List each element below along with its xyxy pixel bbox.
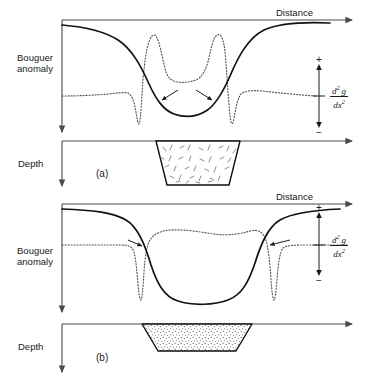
panel-b-distance-label: Distance xyxy=(276,191,313,202)
panel-a-bouguer-curve xyxy=(62,23,330,117)
figure-container: Distance Bouguer anomaly + − d2 g dx2 De… xyxy=(0,0,368,381)
panel-b-derivative-denominator: dx2 xyxy=(330,246,348,259)
panel-a-derivative-scale xyxy=(313,64,325,128)
panel-b-buried-body xyxy=(142,324,252,351)
panel-a-plus-sign: + xyxy=(316,54,322,65)
panel-a-bouguer-label: Bouguer anomaly xyxy=(8,52,62,74)
panel-b-derivative-label: d2 g dx2 xyxy=(330,233,348,260)
panel-b-bouguer-curve xyxy=(62,209,340,304)
panel-a-arrow-right xyxy=(196,90,212,100)
panel-a-minus-sign: − xyxy=(316,127,322,138)
panel-a-distance-label: Distance xyxy=(276,7,313,18)
panel-b-arrow-right xyxy=(270,240,290,245)
panel-a-second-derivative-curve xyxy=(62,35,316,124)
panel-b-second-derivative-curve xyxy=(62,230,348,300)
panel-a-buried-body xyxy=(156,141,240,185)
panel-a-arrow-left xyxy=(162,90,178,100)
panel-b-bouguer-line1: Bouguer xyxy=(17,245,53,256)
panel-a-bouguer-line2: anomaly xyxy=(17,63,53,74)
panel-a-derivative-label: d2 g dx2 xyxy=(330,84,348,111)
panel-b-depth-label: Depth xyxy=(18,341,43,352)
panel-a-inflection-arrows xyxy=(162,90,212,100)
panel-a-depth-label: Depth xyxy=(18,158,43,169)
panel-a-bouguer-line1: Bouguer xyxy=(17,52,53,63)
panel-b-arrow-left xyxy=(128,240,142,246)
panel-b-derivative-scale xyxy=(313,212,325,276)
panel-b-tag: (b) xyxy=(96,352,108,363)
panel-a-derivative-denominator: dx2 xyxy=(330,97,348,110)
panel-a-tag: (a) xyxy=(96,168,108,179)
panel-b-plus-sign: + xyxy=(316,202,322,213)
panel-a-derivative-numerator: d2 g xyxy=(330,84,348,97)
panel-b-axes xyxy=(62,204,352,312)
panel-a-axes xyxy=(62,20,352,132)
panel-b-derivative-numerator: d2 g xyxy=(330,233,348,246)
panel-b-bouguer-label: Bouguer anomaly xyxy=(8,245,62,267)
panel-b-bouguer-line2: anomaly xyxy=(17,256,53,267)
panel-b-minus-sign: − xyxy=(316,275,322,286)
